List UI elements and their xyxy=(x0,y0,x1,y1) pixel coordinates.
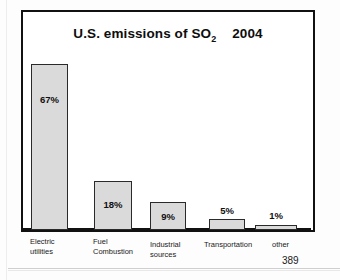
page-scan-line xyxy=(8,268,340,269)
page-number: 389 xyxy=(282,255,299,266)
scanned-page: U.S. emissions of SO22004 67% 18% 9% 5% … xyxy=(0,0,340,280)
category-label-fuel-combustion: Fuel Combustion xyxy=(93,237,153,256)
bar-transportation[interactable] xyxy=(209,219,245,230)
category-label-other: other xyxy=(272,240,302,250)
bar-value-electric-utilities: 67% xyxy=(31,94,68,105)
bar-value-other: 1% xyxy=(255,210,297,221)
bar-value-industrial-sources: 9% xyxy=(150,211,186,222)
bar-electric-utilities[interactable] xyxy=(31,64,68,230)
bar-value-transportation: 5% xyxy=(209,205,245,216)
bar-other[interactable] xyxy=(255,225,297,230)
page-edge-line xyxy=(6,0,7,280)
category-label-industrial-sources: Industrial sources xyxy=(150,240,202,259)
category-label-electric-utilities: Electric utilities xyxy=(30,237,86,256)
chart-frame: U.S. emissions of SO22004 67% 18% 9% 5% … xyxy=(21,10,315,232)
category-label-transportation: Transportation xyxy=(204,240,266,250)
plot-area: 67% 18% 9% 5% 1% xyxy=(23,12,311,230)
bar-value-fuel-combustion: 18% xyxy=(94,199,132,210)
page-scan-line-secondary xyxy=(8,270,340,271)
